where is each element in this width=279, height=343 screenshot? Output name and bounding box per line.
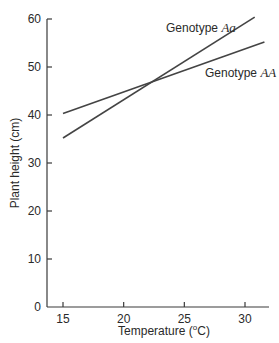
y-axis-ticks: 0102030405060 (28, 12, 52, 314)
y-axis-title: Plant height (cm) (8, 118, 22, 209)
series-label-genotype-AA: Genotype AA (205, 65, 276, 80)
y-tick-label: 50 (28, 60, 42, 74)
y-tick-label: 30 (28, 156, 42, 170)
x-axis-title: Temperature (oC) (118, 323, 210, 338)
x-tick-label: 30 (238, 312, 252, 326)
y-tick-label: 20 (28, 204, 42, 218)
series-label-genotype-Aa: Genotype Aa (166, 20, 236, 35)
y-tick-label: 60 (28, 12, 42, 26)
y-tick-label: 40 (28, 108, 42, 122)
y-tick-label: 10 (28, 252, 42, 266)
x-axis-ticks: 15202530 (56, 302, 252, 326)
reaction-norm-chart: 0102030405060 15202530 Genotype Aa Genot… (0, 0, 279, 343)
x-tick-label: 15 (56, 312, 70, 326)
y-tick-label: 0 (34, 300, 41, 314)
